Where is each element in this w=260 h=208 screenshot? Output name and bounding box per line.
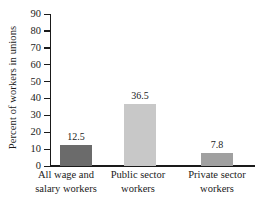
y-axis-tick-label: 10 [1,144,41,154]
x-axis-category-line: Private sector [188,169,245,180]
x-axis-category-line: All wage and [38,169,94,180]
y-axis-tick-label: 60 [1,60,41,70]
y-axis-tick [44,64,50,65]
bar [201,153,233,166]
x-axis-category-label: All wage andsalary workers [25,168,107,195]
bar-value-label: 36.5 [112,91,168,101]
y-axis-line [50,14,51,166]
x-axis-category-line: salary workers [25,182,107,196]
bar [124,104,156,166]
y-axis-tick-label: 20 [1,127,41,137]
y-axis-tick [44,98,50,99]
x-axis-category-label: Private sectorworkers [176,168,258,195]
y-axis-tick [44,47,50,48]
y-axis-tick [44,166,50,167]
y-axis-tick [44,115,50,116]
y-axis-tick [44,81,50,82]
y-axis-tick [44,30,50,31]
x-axis-category-line: Public sector [111,169,166,180]
bar [60,145,92,166]
x-axis-category-line: workers [176,182,258,196]
bar-value-label: 7.8 [189,140,245,150]
y-axis-tick [44,149,50,150]
x-axis-category-line: workers [97,182,179,196]
x-axis-category-label: Public sectorworkers [97,168,179,195]
y-axis-tick-label: 80 [1,26,41,36]
bar-chart: Percent of workers in unions 90807060504… [0,0,260,208]
y-axis-tick-label: 70 [1,43,41,53]
bar-value-label: 12.5 [48,132,104,142]
y-axis-tick-label: 90 [1,9,41,19]
y-axis-tick-label: 50 [1,77,41,87]
y-axis-tick-label: 40 [1,93,41,103]
y-axis-tick-label: 30 [1,110,41,120]
y-axis-tick [44,14,50,15]
